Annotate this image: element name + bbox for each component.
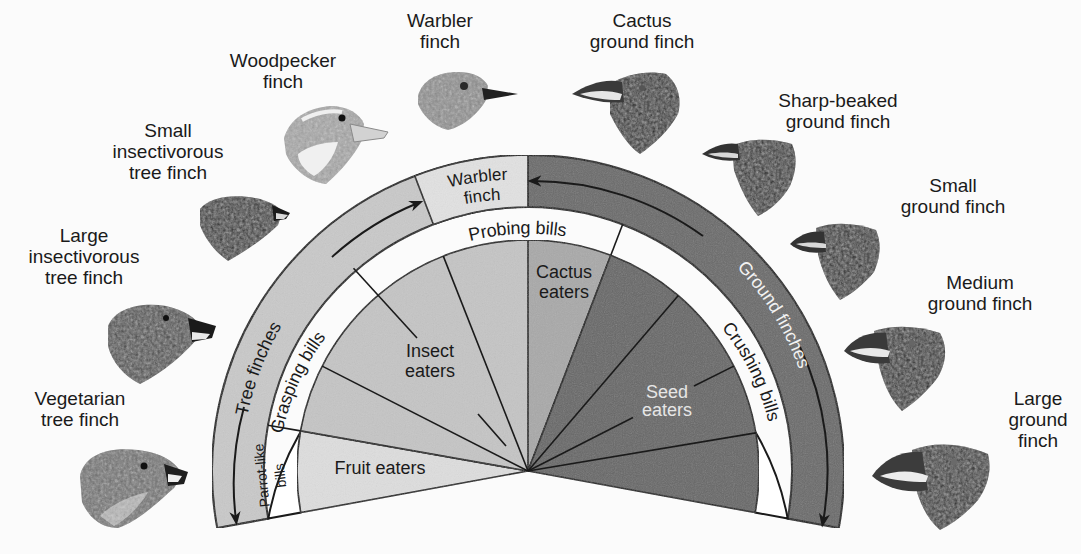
fan-diagram-svg: Tree finches Ground finches Warbler finc…	[0, 0, 1081, 554]
seed-eaters-label-line1: Seed	[646, 382, 688, 402]
finch-diagram: Vegetarian tree finch Large insectivorou…	[0, 0, 1081, 554]
parrot-like-label-line2: bills	[271, 463, 290, 489]
bird-small-insectivorous-tree-finch-icon	[200, 196, 290, 261]
insect-eaters-label-line2: eaters	[405, 361, 455, 381]
insect-eaters-label-line1: Insect	[406, 341, 454, 361]
bird-vegetarian-tree-finch-icon	[80, 449, 188, 528]
bird-medium-ground-finch-icon	[844, 327, 945, 411]
bird-large-ground-finch-icon	[872, 444, 990, 530]
bird-small-ground-finch-icon	[790, 224, 880, 300]
bird-warbler-finch-icon	[418, 72, 518, 130]
bird-large-insectivorous-tree-finch-icon	[108, 305, 216, 384]
cactus-eaters-label-line1: Cactus	[536, 262, 592, 282]
bird-cactus-ground-finch-icon	[572, 72, 680, 154]
bird-woodpecker-finch-icon	[284, 106, 388, 184]
cactus-eaters-label-line2: eaters	[539, 282, 589, 302]
seed-eaters-label-line2: eaters	[642, 400, 692, 420]
fruit-eaters-label: Fruit eaters	[334, 458, 425, 478]
bird-sharp-beaked-ground-finch-icon	[702, 140, 796, 216]
